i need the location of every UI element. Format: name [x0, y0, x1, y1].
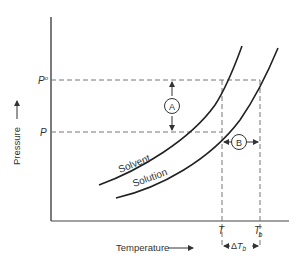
y-axis-label: Pressure [11, 101, 22, 165]
svg-text:ΔTb: ΔTb [231, 241, 247, 252]
x-axis-label: Temperature [116, 242, 193, 253]
delta-sub: b [243, 245, 247, 252]
b-label: B [236, 138, 242, 148]
p-zero-sup: o [45, 75, 49, 81]
boiling-point-elevation-diagram: Solvent Solution Po P Pressure Temperatu… [0, 0, 303, 265]
pressure-label: Pressure [11, 127, 22, 165]
guide-lines [51, 80, 260, 248]
svg-text:Po: Po [38, 75, 49, 86]
a-label: A [169, 102, 175, 112]
solution-label: Solution [131, 166, 169, 189]
annotation-a: A [165, 82, 180, 130]
y-tick-p: P [40, 127, 47, 138]
x-tick-t: T [218, 225, 225, 236]
delta-tb-annotation: ΔTb [224, 241, 258, 252]
x-tick-tb: T′b [254, 225, 262, 238]
curves [99, 46, 278, 198]
temperature-label: Temperature [116, 242, 169, 253]
solvent-label: Solvent [117, 152, 152, 175]
svg-text:T′b: T′b [254, 225, 262, 238]
axes [51, 17, 289, 221]
y-tick-p-zero: Po [38, 75, 49, 86]
annotation-b: B [224, 135, 258, 150]
tb-sub: b [258, 231, 262, 238]
